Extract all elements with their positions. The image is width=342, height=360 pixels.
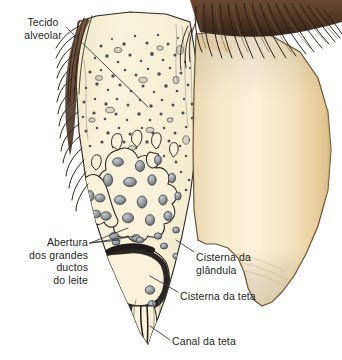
label-abertura-dos-grandes-ductos-do-leite: Abertura dos grandes ductos do leite	[2, 236, 88, 286]
label-canal-da-teta: Canal da teta	[172, 335, 292, 348]
label-cisterna-da-glandula: Cisterna da glândula	[196, 251, 306, 276]
anatomy-figure: Tecido alveolar Abertura dos grandes duc…	[0, 0, 342, 360]
udder-cross-section-illustration	[0, 0, 342, 360]
teat-cistern	[131, 306, 157, 346]
label-cisterna-da-teta: Cisterna da teta	[180, 290, 310, 303]
label-tecido-alveolar: Tecido alveolar	[4, 16, 82, 41]
sectioned-gland-half	[56, 12, 199, 346]
leader-canal-teta	[150, 326, 170, 340]
